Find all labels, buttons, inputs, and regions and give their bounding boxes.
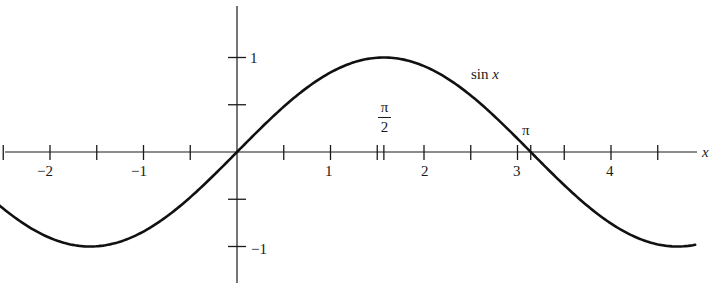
x-tick-label-2: 2 <box>421 164 429 179</box>
y-tick-label-neg1: −1 <box>251 242 267 257</box>
x-tick-label-neg2: −2 <box>37 164 53 179</box>
fraction-bar <box>378 117 391 118</box>
curve-label: sin x <box>471 67 499 82</box>
curve-label-var: x <box>492 66 499 82</box>
sine-chart <box>0 0 714 289</box>
y-tick-label-1: 1 <box>250 51 258 66</box>
x-tick-label-3: 3 <box>513 164 521 179</box>
x-axis-label: x <box>702 145 709 160</box>
axes <box>5 6 697 283</box>
x-tick-label-neg1: −1 <box>131 164 147 179</box>
pi-label: π <box>522 123 530 138</box>
curve-label-func: sin <box>471 66 489 82</box>
pi-over-2-denominator: 2 <box>381 119 389 135</box>
x-tick-label-4: 4 <box>606 164 614 179</box>
pi-over-2-numerator: π <box>381 99 389 115</box>
pi-over-2-label: π 2 <box>378 100 391 135</box>
x-tick-label-1: 1 <box>325 164 333 179</box>
